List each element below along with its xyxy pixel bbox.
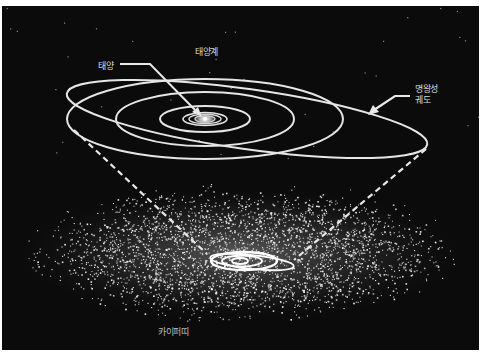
kuiper-belt-object — [291, 237, 292, 238]
kuiper-belt-object — [201, 297, 202, 298]
sun-core — [203, 117, 207, 121]
kuiper-belt-object — [200, 265, 201, 266]
kuiper-belt-object — [274, 242, 276, 244]
kuiper-belt-object — [271, 250, 272, 251]
kuiper-belt-object — [283, 218, 284, 219]
kuiper-belt-object — [62, 262, 64, 264]
kuiper-belt-object — [132, 276, 133, 277]
kuiper-belt-object — [308, 275, 309, 276]
kuiper-belt-object — [81, 226, 82, 227]
kuiper-belt-object — [55, 261, 56, 262]
kuiper-belt-object — [309, 300, 310, 301]
kuiper-belt-object — [222, 256, 223, 257]
kuiper-belt-object — [109, 244, 110, 245]
kuiper-belt-object — [145, 279, 146, 280]
kuiper-belt-object — [173, 299, 174, 300]
kuiper-belt-object — [243, 299, 244, 300]
kuiper-belt-object — [299, 284, 301, 286]
kuiper-belt-object — [293, 299, 294, 300]
kuiper-belt-object — [364, 207, 365, 208]
kuiper-belt-object — [360, 301, 361, 302]
kuiper-belt-object — [235, 282, 236, 283]
kuiper-belt-object — [108, 282, 109, 283]
kuiper-belt-object — [161, 195, 162, 196]
kuiper-belt-object — [320, 300, 321, 301]
kuiper-belt-object — [285, 293, 286, 294]
kuiper-belt-object — [170, 284, 172, 286]
kuiper-belt-object — [354, 234, 356, 236]
kuiper-belt-object — [324, 213, 326, 215]
kuiper-belt-object — [117, 248, 118, 249]
kuiper-belt-object — [285, 286, 286, 287]
kuiper-belt-object — [414, 256, 415, 257]
kuiper-belt-object — [335, 248, 336, 249]
kuiper-belt-object — [340, 290, 342, 292]
kuiper-belt-object — [204, 218, 205, 219]
kuiper-belt-object — [269, 238, 270, 239]
kuiper-belt-object — [291, 235, 292, 236]
kuiper-belt-object — [392, 250, 394, 252]
kuiper-belt-object — [414, 271, 416, 273]
kuiper-belt-object — [321, 220, 322, 221]
kuiper-belt-object — [303, 238, 304, 239]
kuiper-belt-object — [112, 275, 113, 276]
kuiper-belt-object — [269, 298, 270, 299]
kuiper-belt-object — [253, 283, 255, 285]
kuiper-belt-object — [342, 198, 343, 199]
kuiper-belt-object — [175, 268, 176, 269]
kuiper-belt-object — [136, 203, 138, 205]
kuiper-belt-object — [278, 295, 280, 297]
kuiper-belt-object — [153, 279, 154, 280]
kuiper-belt-object — [325, 253, 326, 254]
kuiper-belt-object — [349, 255, 351, 257]
kuiper-belt-object — [280, 291, 282, 293]
kuiper-belt-object — [419, 291, 420, 292]
kuiper-belt-object — [195, 215, 196, 216]
kuiper-belt-object — [261, 226, 262, 227]
kuiper-belt-object — [336, 233, 338, 235]
kuiper-belt-object — [129, 212, 131, 214]
kuiper-belt-object — [275, 274, 276, 275]
kuiper-belt-object — [270, 289, 272, 291]
kuiper-belt-object — [283, 213, 284, 214]
kuiper-belt-object — [155, 258, 156, 259]
kuiper-belt-object — [399, 225, 400, 226]
kuiper-belt-object — [346, 250, 347, 251]
background-star — [170, 100, 171, 101]
kuiper-belt-object — [320, 264, 321, 265]
kuiper-belt-object — [172, 287, 173, 288]
kuiper-belt-object — [181, 297, 182, 298]
kuiper-belt-object — [337, 275, 338, 276]
kuiper-belt-object — [322, 246, 323, 247]
kuiper-belt-object — [182, 252, 184, 254]
kuiper-belt-object — [349, 284, 350, 285]
kuiper-belt-object — [159, 294, 160, 295]
kuiper-belt-object — [209, 214, 210, 215]
kuiper-belt-object — [173, 209, 174, 210]
kuiper-belt-object — [309, 200, 310, 201]
kuiper-belt-object — [221, 234, 222, 235]
kuiper-belt-object — [365, 236, 366, 237]
kuiper-belt-object — [184, 288, 185, 289]
kuiper-belt-object — [106, 266, 107, 267]
kuiper-belt-object — [259, 230, 260, 231]
kuiper-belt-object — [245, 223, 246, 224]
kuiper-belt-object — [375, 202, 376, 203]
kuiper-belt-object — [361, 241, 362, 242]
kuiper-belt-object — [231, 220, 232, 221]
kuiper-belt-object — [200, 263, 201, 264]
kuiper-belt-object — [186, 288, 187, 289]
kuiper-belt-object — [282, 281, 283, 282]
kuiper-belt-object — [309, 234, 310, 235]
kuiper-belt-object — [252, 224, 254, 226]
kuiper-belt-object — [217, 285, 218, 286]
kuiper-belt-object — [243, 294, 245, 296]
kuiper-belt-object — [376, 260, 377, 261]
kuiper-belt-object — [296, 235, 298, 237]
kuiper-belt-object — [226, 238, 228, 240]
kuiper-belt-object — [191, 235, 192, 236]
kuiper-belt-object — [251, 243, 252, 244]
kuiper-belt-object — [224, 204, 226, 206]
kuiper-belt-object — [110, 236, 111, 237]
kuiper-belt-object — [159, 228, 160, 229]
